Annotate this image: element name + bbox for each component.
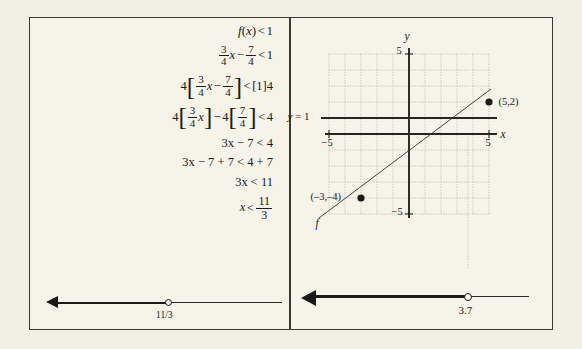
y-min-tick-label: −5 — [392, 206, 403, 217]
y-equals-one-label: y = 1 — [288, 110, 310, 122]
open-circle-endpoint — [464, 293, 472, 301]
fraction-seven-fourths: 7 4 — [238, 105, 248, 129]
fraction-denominator: 4 — [246, 55, 256, 68]
token-lbracket: [ — [229, 108, 237, 126]
token-x: x — [230, 48, 236, 62]
solution-number-line-fraction: 11/3 — [46, 282, 282, 326]
y-equals-one-variable: y — [288, 110, 293, 122]
open-circle-endpoint — [165, 299, 172, 306]
y-axis-label: y — [405, 30, 410, 42]
equation-list: f(x)<1 3 4 x− 7 4 <1 4[ 3 4 x− 7 4 — [30, 24, 273, 228]
token-rparen: ) — [252, 23, 256, 38]
fraction-three-fourths: 3 4 — [219, 44, 229, 68]
equation-step-2: 3 4 x− 7 4 <1 — [30, 44, 273, 68]
point-5-2 — [485, 98, 492, 105]
equation-step-3: 4[ 3 4 x− 7 4 ]<[1]4 — [30, 75, 273, 99]
number-line-ray — [57, 302, 170, 304]
fraction-denominator: 4 — [223, 86, 233, 99]
token-lt: < — [258, 23, 265, 38]
fraction-three-fourths: 3 4 — [196, 74, 206, 98]
token-lt: < — [247, 201, 254, 215]
fraction-denominator: 4 — [188, 117, 198, 130]
token-one: 1 — [267, 23, 274, 38]
fraction-numerator: 3 — [188, 105, 198, 117]
left-arrow-head-icon — [301, 290, 316, 306]
equation-step-4: 4[ 3 4 x]−4[ 7 4 ]<4 — [30, 106, 273, 130]
fraction-numerator: 3 — [219, 44, 229, 56]
token-minus: − — [237, 48, 244, 62]
fraction-denominator: 4 — [219, 55, 229, 68]
equation-step-5: 3x − 7 < 4 — [30, 137, 273, 150]
token-rbracket: ] — [248, 108, 256, 126]
token-rbracket: ] — [204, 108, 212, 126]
token-lbracket: [ — [187, 78, 195, 96]
y-equals-one-value: = 1 — [295, 110, 309, 122]
fraction-seven-fourths: 7 4 — [246, 44, 256, 68]
token-four: 4 — [267, 110, 273, 124]
point-label-5-2: (5,2) — [499, 96, 519, 107]
token-lt: < — [258, 110, 265, 124]
equation-step-7: 3x < 11 — [30, 176, 273, 189]
token-x: x — [240, 201, 246, 215]
right-panel-graph: y x 5 −5 −5 5 y = 1 (5,2) (–3,–4) f 3.7 — [291, 18, 555, 329]
solution-number-line-decimal: 3.7 — [301, 276, 549, 324]
fraction-numerator: 7 — [223, 74, 233, 86]
x-min-tick-label: −5 — [322, 137, 333, 148]
x-axis-label: x — [501, 128, 506, 140]
point-neg3-neg4 — [357, 194, 364, 201]
token-four: 4 — [267, 79, 273, 93]
fraction-denominator: 3 — [256, 208, 272, 222]
token-one: 1 — [267, 48, 273, 62]
fraction-seven-fourths: 7 4 — [223, 74, 233, 98]
number-line-tail — [471, 296, 529, 297]
fraction-numerator: 3 — [196, 74, 206, 86]
figure-container: f(x)<1 3 4 x− 7 4 <1 4[ 3 4 x− 7 4 — [29, 17, 553, 330]
token-lbracket: [ — [179, 108, 187, 126]
number-line-ray — [315, 295, 467, 298]
equation-step-1: f(x)<1 — [30, 24, 273, 38]
x-max-tick-label: 5 — [486, 137, 491, 148]
token-lt: < — [244, 79, 251, 93]
endpoint-label: 3.7 — [459, 304, 473, 316]
fraction-numerator: 11 — [256, 195, 272, 208]
fraction-three-fourths: 3 4 — [188, 105, 198, 129]
point-label-neg3-neg4: (–3,–4) — [311, 191, 342, 202]
fraction-denominator: 4 — [196, 86, 206, 99]
y-max-tick-label: 5 — [397, 45, 402, 56]
fraction-numerator: 7 — [246, 44, 256, 56]
token-x: x — [207, 79, 213, 93]
number-line-tail — [170, 302, 282, 303]
left-panel-algebra: f(x)<1 3 4 x− 7 4 <1 4[ 3 4 x− 7 4 — [30, 18, 289, 329]
token-rbracket: ] — [234, 78, 242, 96]
equation-step-8: x< 11 3 — [30, 195, 273, 221]
fraction-eleven-thirds: 11 3 — [256, 195, 272, 221]
equation-step-6: 3x − 7 + 7 < 4 + 7 — [30, 156, 273, 169]
token-minus: − — [214, 110, 221, 124]
token-lt: < — [258, 48, 265, 62]
token-minus: − — [214, 79, 221, 93]
endpoint-label: 11/3 — [156, 310, 173, 320]
function-label-f: f — [316, 217, 319, 229]
fraction-numerator: 7 — [238, 105, 248, 117]
fraction-denominator: 4 — [238, 117, 248, 130]
